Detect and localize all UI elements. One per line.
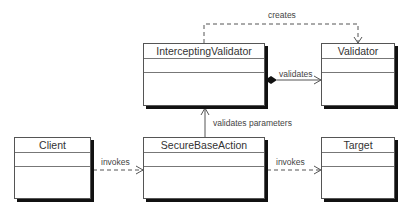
class-client: Client (14, 137, 91, 199)
class-intercepting-validator: InterceptingValidator (143, 43, 265, 106)
validates-parameters-label: validates parameters (213, 118, 292, 128)
attributes-compartment (144, 59, 264, 73)
class-validator: Validator (321, 43, 395, 106)
class-secure-base-action: SecureBaseAction (143, 137, 265, 199)
creates-label: creates (268, 10, 296, 20)
attributes-compartment (15, 153, 90, 167)
class-target: Target (321, 137, 395, 199)
client-invokes-label: invokes (101, 157, 130, 167)
class-name: Client (15, 138, 90, 153)
class-name: SecureBaseAction (144, 138, 264, 153)
validates-label: validates (279, 69, 313, 79)
composition-diamond-icon (265, 76, 277, 84)
class-name: InterceptingValidator (144, 44, 264, 59)
class-name: Target (322, 138, 394, 153)
class-name: Validator (322, 44, 394, 59)
attributes-compartment (322, 59, 394, 73)
uml-class-diagram: creates validates validates parameters i… (0, 0, 409, 213)
creates-dependency-line (204, 24, 358, 43)
attributes-compartment (144, 153, 264, 167)
attributes-compartment (322, 153, 394, 167)
target-invokes-label: invokes (276, 157, 305, 167)
